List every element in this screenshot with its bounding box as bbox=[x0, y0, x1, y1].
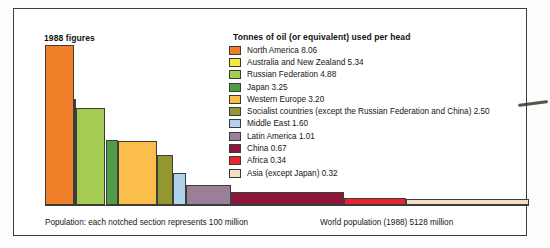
chart-frame: 1988 figures Tonnes of oil (or equivalen… bbox=[13, 8, 527, 236]
bar-africa bbox=[344, 198, 406, 205]
bar-western-europe bbox=[118, 141, 157, 205]
population-caption: Population: each notched section represe… bbox=[45, 218, 248, 227]
bar-russian-federation bbox=[76, 108, 106, 205]
bar-socialist-countries-except-the-russian-federation-and-china bbox=[157, 155, 173, 205]
world-population-caption: World population (1988) 5128 million bbox=[320, 218, 453, 227]
bar-middle-east bbox=[173, 173, 186, 205]
plot-area bbox=[45, 45, 529, 205]
bar-japan bbox=[106, 140, 119, 205]
bar-australia-and-new-zealand bbox=[74, 99, 76, 205]
bar-north-america bbox=[45, 45, 74, 205]
bar-china bbox=[231, 192, 345, 205]
page-title: 1988 figures bbox=[44, 33, 95, 43]
x-axis-baseline bbox=[45, 205, 529, 206]
legend-title: Tonnes of oil (or equivalent) used per h… bbox=[233, 32, 410, 42]
bar-latin-america bbox=[186, 185, 230, 205]
chart-screenshot: 1988 figures Tonnes of oil (or equivalen… bbox=[0, 0, 550, 248]
bar-asia-except-japan bbox=[406, 199, 529, 205]
